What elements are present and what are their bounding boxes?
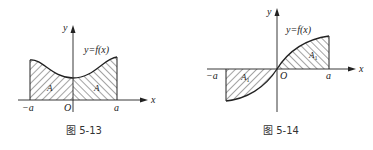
right-bound-label: a bbox=[326, 70, 331, 81]
right-shaded-area bbox=[277, 36, 329, 69]
y-axis-arrow-icon bbox=[275, 8, 280, 16]
left-bound-label: −a bbox=[22, 102, 34, 113]
function-label: y=f(x) bbox=[83, 44, 110, 56]
x-axis-arrow-icon bbox=[140, 98, 148, 103]
right-shaded-area bbox=[73, 57, 117, 100]
x-axis-label: x bbox=[150, 94, 156, 105]
origin-label: O bbox=[280, 70, 287, 81]
figure-5-14: y x y=f(x) −a O a A1 A1 图 5-14 bbox=[206, 6, 364, 136]
y-axis-label: y bbox=[266, 6, 272, 17]
figures-canvas: y x y=f(x) −a O a A A 图 5-13 y x y=f(x) … bbox=[0, 0, 373, 150]
origin-label: O bbox=[64, 102, 71, 113]
right-area-label: A bbox=[93, 83, 100, 93]
y-axis-label: y bbox=[62, 22, 68, 33]
figure-caption: 图 5-14 bbox=[263, 125, 299, 136]
left-shaded-area bbox=[30, 60, 73, 100]
function-label: y=f(x) bbox=[285, 24, 312, 36]
y-axis-arrow-icon bbox=[71, 25, 76, 33]
figure-caption: 图 5-13 bbox=[66, 125, 102, 136]
right-bound-label: a bbox=[114, 102, 119, 113]
right-area-subscript: 1 bbox=[315, 55, 318, 61]
left-area-label: A bbox=[46, 83, 53, 93]
x-axis-label: x bbox=[358, 63, 364, 74]
left-area-subscript: 1 bbox=[247, 77, 250, 83]
left-shaded-area bbox=[226, 69, 277, 101]
x-axis-arrow-icon bbox=[348, 67, 356, 72]
left-bound-label: −a bbox=[206, 70, 218, 81]
figure-5-13: y x y=f(x) −a O a A A 图 5-13 bbox=[18, 22, 156, 136]
